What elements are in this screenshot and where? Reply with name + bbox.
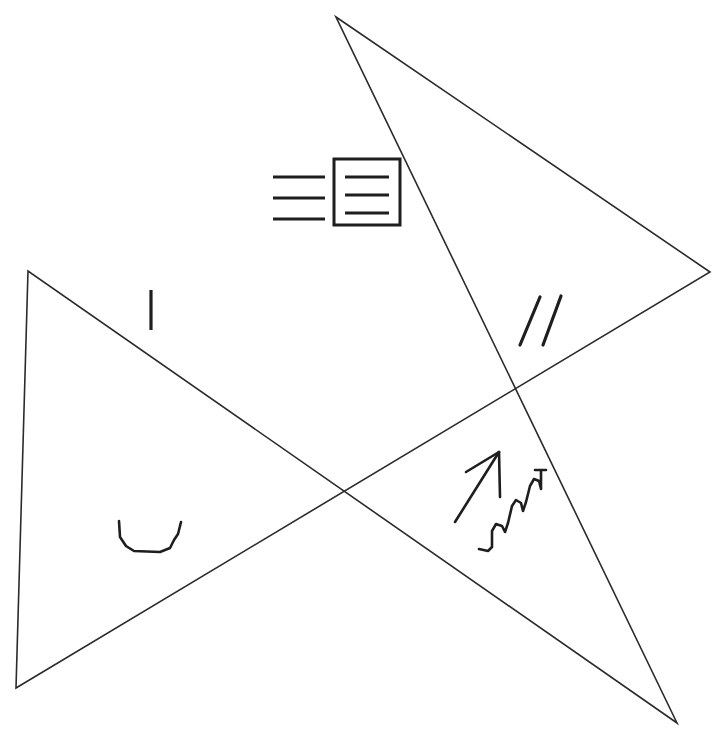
arrow-head-right — [499, 452, 500, 497]
diagram-canvas — [0, 0, 720, 736]
star-diagram — [0, 0, 720, 736]
canvas-background — [0, 0, 720, 736]
